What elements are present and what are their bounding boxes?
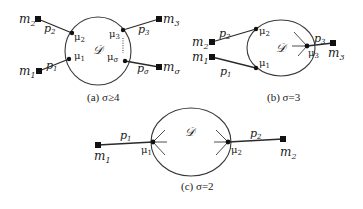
label-m1-c: m1 (94, 149, 110, 165)
node-mu1-a (67, 57, 71, 61)
panel-c: m1 m2 μ1 μ2 p1 p2 𝒟 (c) σ=2 (94, 108, 296, 193)
label-mu1-c: μ1 (141, 144, 152, 157)
node-m3-a (156, 16, 162, 22)
node-musigma-a (123, 59, 127, 63)
node-msigma-a (156, 64, 162, 70)
label-p2-c: p2 (250, 127, 262, 141)
node-mu2-c (226, 140, 231, 145)
label-mu2-b: μ2 (259, 25, 270, 38)
label-mu1-a: μ1 (74, 50, 85, 63)
label-p1-b: p1 (220, 65, 232, 79)
node-m1-c (95, 142, 101, 148)
label-p1-c: p1 (120, 129, 132, 143)
label-mu3-a: μ3 (109, 28, 120, 41)
label-mu2-a: μ2 (74, 31, 85, 44)
label-p1-a: p1 (46, 59, 58, 73)
node-m1-a (36, 68, 42, 74)
label-m2-a: m2 (19, 12, 35, 28)
label-m3-b: m3 (328, 46, 344, 62)
label-m2-b: m2 (192, 35, 208, 51)
label-p2-a: p2 (44, 22, 56, 36)
label-mu3-b: μ3 (308, 47, 319, 60)
caption-a: (a) σ≥4 (87, 91, 120, 104)
caption-c: (c) σ=2 (181, 180, 214, 193)
label-m2-c: m2 (280, 145, 296, 161)
region-label-c: 𝒟 (185, 125, 197, 139)
label-mu2-c: μ2 (231, 144, 242, 157)
label-p2-b: p2 (219, 27, 231, 41)
panel-a: m2 m1 m3 mσ μ2 μ1 μ3 μσ p2 p1 p3 pσ 𝒟 (a… (19, 12, 180, 104)
region-label-a: 𝒟 (93, 43, 105, 57)
label-musigma-a: μσ (107, 51, 119, 64)
node-mu1-b (254, 66, 258, 70)
region-label-b: 𝒟 (276, 41, 288, 55)
label-msigma-a: mσ (163, 60, 180, 76)
label-psigma-a: pσ (137, 62, 149, 76)
node-mu2-b (254, 27, 258, 31)
panel-b: m2 m1 m3 μ2 μ1 μ3 p2 p1 p3 𝒟 (b) σ=3 (192, 20, 344, 104)
label-m3-a: m3 (163, 12, 179, 28)
diagram-canvas: m2 m1 m3 mσ μ2 μ1 μ3 μσ p2 p1 p3 pσ 𝒟 (a… (0, 0, 363, 209)
label-mu1-b: μ1 (259, 57, 270, 70)
label-p3-a: p3 (138, 23, 150, 37)
tick-mu1-c-1 (153, 130, 165, 142)
node-m2-b (209, 39, 215, 45)
label-m1-b: m1 (192, 50, 208, 66)
node-mu1-c (151, 140, 156, 145)
label-p3-b: p3 (314, 32, 326, 46)
caption-b: (b) σ=3 (267, 91, 301, 104)
node-m1-b (209, 54, 215, 60)
tick-mu1-c-3 (153, 142, 165, 155)
tick-mu3-b-1 (294, 32, 307, 46)
label-m1-a: m1 (19, 64, 35, 80)
tick-mu2-c-1 (216, 130, 228, 142)
tick-mu2-c-3 (216, 142, 228, 155)
node-m2-c (280, 136, 286, 142)
node-m2-a (35, 16, 41, 22)
node-mu3-a (121, 28, 125, 32)
